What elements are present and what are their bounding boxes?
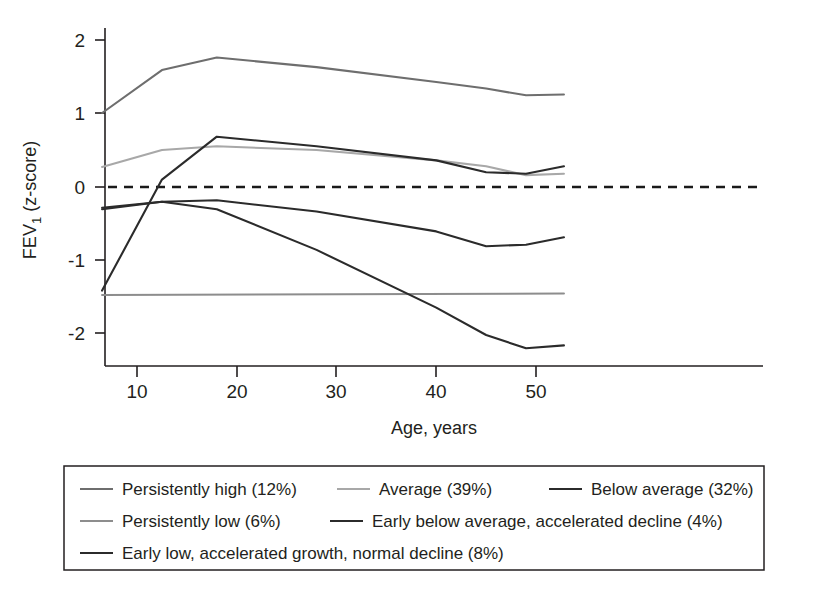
legend-item-early-below-average[interactable]: Early below average, accelerated decline… — [330, 512, 723, 531]
y-tick-label-1: 1 — [74, 103, 85, 124]
y-axis-title-main: FEV — [20, 224, 40, 259]
legend-label-persistently-high: Persistently high (12%) — [122, 480, 297, 499]
chart-background — [0, 0, 837, 601]
x-tick-label-30: 30 — [325, 381, 346, 402]
y-axis-title-tail: (z-score) — [20, 141, 40, 212]
x-tick-label-40: 40 — [425, 381, 446, 402]
x-axis-title: Age, years — [391, 418, 477, 438]
x-tick-label-50: 50 — [525, 381, 546, 402]
legend-item-early-low[interactable]: Early low, accelerated growth, normal de… — [80, 544, 504, 563]
y-tick-label-minus-1: -1 — [68, 250, 85, 271]
legend-label-average: Average (39%) — [379, 480, 492, 499]
x-tick-label-10: 10 — [126, 381, 147, 402]
y-axis-title-subscript: 1 — [29, 217, 44, 224]
legend-label-early-low: Early low, accelerated growth, normal de… — [122, 544, 504, 563]
x-tick-label-20: 20 — [226, 381, 247, 402]
legend-label-below-average: Below average (32%) — [591, 480, 754, 499]
legend-label-persistently-low: Persistently low (6%) — [122, 512, 281, 531]
figure-container: 2 1 0 -1 -2 10 20 30 40 50 Age, years FE… — [0, 0, 837, 601]
y-tick-label-minus-2: -2 — [68, 323, 85, 344]
y-tick-label-2: 2 — [74, 30, 85, 51]
y-tick-label-0: 0 — [74, 177, 85, 198]
trajectory-line-3 — [102, 294, 564, 295]
fev1-trajectory-chart: 2 1 0 -1 -2 10 20 30 40 50 Age, years FE… — [0, 0, 837, 601]
legend-label-early-below-average: Early below average, accelerated decline… — [372, 512, 723, 531]
